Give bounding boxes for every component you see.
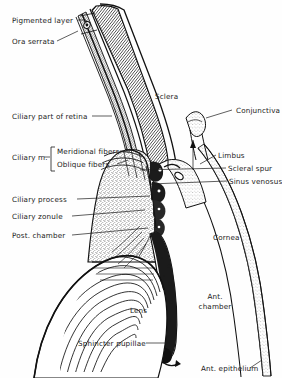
eye-anatomy-figure: Pigmented layer Ora serrata Ciliary part… <box>0 0 282 378</box>
label-scleral-spur: Scleral spur <box>228 164 272 173</box>
label-ciliary-muscle: Ciliary m. <box>12 153 48 162</box>
label-lens: Lens <box>130 306 147 315</box>
label-ciliary-part-retina: Ciliary part of retina <box>12 112 87 121</box>
label-sphincter-pupillae: Sphincter pupillae <box>78 339 146 348</box>
label-conjunctiva: Conjunctiva <box>236 106 280 115</box>
label-meridional-fibers: Meridional fibers <box>57 147 120 156</box>
label-limbus: Limbus <box>218 151 245 160</box>
label-ciliary-zonule: Ciliary zonule <box>12 212 63 221</box>
label-pigmented-layer: Pigmented layer <box>12 16 73 25</box>
label-cornea: Cornea <box>213 233 240 242</box>
label-sclera: Sclera <box>155 92 178 101</box>
label-sinus-venosus: Sinus venosus <box>229 177 282 186</box>
label-ant-chamber-line1: Ant. <box>207 292 222 301</box>
label-ora-serrata: Ora serrata <box>12 37 55 46</box>
label-ant-chamber-line2: chamber <box>199 302 232 311</box>
label-ciliary-process: Ciliary process <box>12 195 67 204</box>
label-ant-epithelium: Ant. epithelium <box>201 364 258 373</box>
label-post-chamber: Post. chamber <box>12 231 65 240</box>
label-oblique-fibers: Oblique fibers <box>57 160 109 169</box>
